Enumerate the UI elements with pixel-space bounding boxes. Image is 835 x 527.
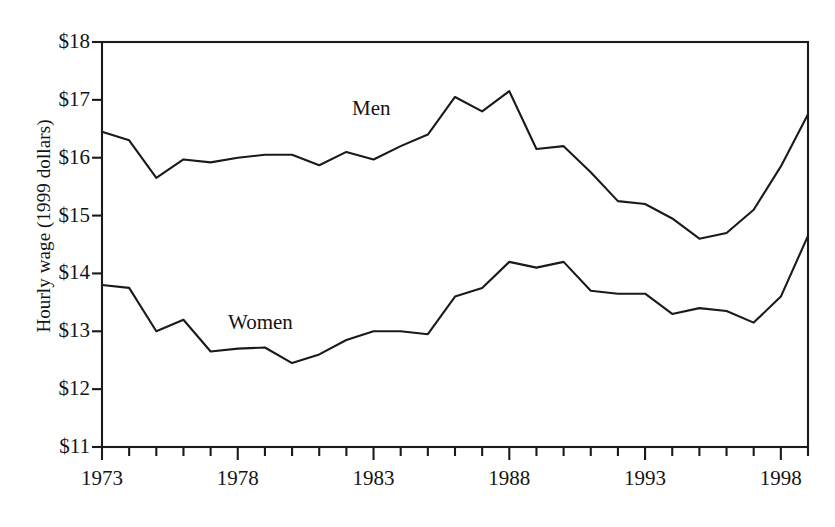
chart-container: Hourly wage (1999 dollars) $18$17$16$15$… [0, 0, 835, 527]
plot-frame [102, 42, 808, 447]
x-axis-ticks [102, 447, 808, 460]
series-label-women: Women [228, 312, 293, 333]
plot-frame-rect [102, 42, 808, 447]
y-axis-ticks [92, 42, 102, 447]
series-label-men: Men [352, 98, 391, 119]
line-series-women [102, 236, 808, 363]
plot-area [0, 0, 835, 527]
line-series-men [102, 91, 808, 239]
